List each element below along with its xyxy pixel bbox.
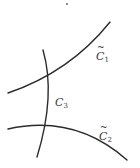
curve-c1-tilde bbox=[8, 22, 110, 93]
label-c2-sub: 2 bbox=[107, 136, 111, 144]
label-c2: C2 bbox=[99, 130, 112, 144]
top-dot bbox=[66, 3, 68, 5]
label-c3-sub: 3 bbox=[63, 102, 67, 110]
curve-c3 bbox=[37, 50, 48, 157]
curve-diagram: ~ C1 C3 ~ C2 bbox=[0, 0, 140, 168]
label-c1-sub: 1 bbox=[104, 56, 108, 64]
label-c3: C3 bbox=[55, 96, 68, 110]
label-c1: C1 bbox=[96, 50, 109, 64]
